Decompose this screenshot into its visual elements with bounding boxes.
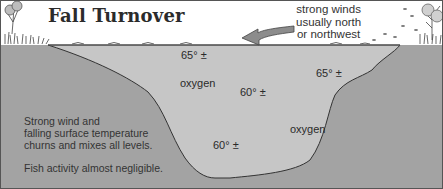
surface-waves (72, 43, 370, 45)
fish-activity-note: Fish activity almost negligible. (24, 162, 163, 174)
temp-label-upper-right: 65° ± (316, 67, 342, 79)
wind-arrow-icon (242, 26, 294, 45)
description-line: falling surface temperature (24, 127, 152, 139)
diagram-title: Fall Turnover (48, 5, 185, 26)
description-text: Strong wind and falling surface temperat… (24, 115, 152, 151)
oxygen-label-lower: oxygen (290, 123, 325, 135)
wind-note-line: or northwest (296, 28, 361, 41)
left-shore-vegetation (5, 1, 49, 44)
description-line: Strong wind and (24, 115, 152, 127)
temp-label-middle: 60° ± (240, 86, 266, 98)
temp-label-bottom: 60° ± (213, 139, 239, 151)
wind-note-line: usually north (296, 16, 361, 29)
right-shore-vegetation (420, 4, 443, 44)
description-line: churns and mixes all levels. (24, 139, 152, 151)
wind-note-line: strong winds (296, 3, 361, 16)
lake-cross-section (0, 0, 443, 189)
oxygen-label-upper: oxygen (180, 77, 215, 89)
temp-label-upper-left: 65° ± (181, 49, 207, 61)
wind-note: strong winds usually north or northwest (296, 3, 361, 41)
fall-turnover-diagram: Fall Turnover strong winds usually north… (0, 0, 443, 189)
blowing-leaves (372, 8, 418, 41)
